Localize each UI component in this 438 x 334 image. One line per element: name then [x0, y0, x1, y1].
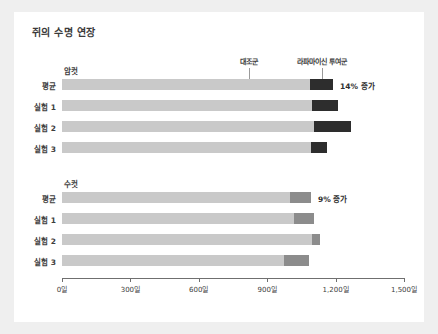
bar-segment-control	[62, 121, 314, 132]
legend-callout-treated: 라파마이신 투여군	[297, 56, 347, 66]
bar-segment-treated	[314, 121, 351, 132]
section-header-male: 수컷	[64, 178, 78, 189]
bar-segment-treated	[310, 79, 333, 90]
annotation-increase: 9% 증가	[318, 192, 347, 203]
legend-callout-control-leader-line	[249, 68, 250, 79]
x-axis-tick-label: 0일	[57, 284, 67, 294]
bar-segment-treated	[284, 255, 309, 266]
x-axis-tick-label: 900일	[258, 284, 277, 294]
x-axis-tick-label: 300일	[121, 284, 140, 294]
chart-card: 쥐의 수명 연장 암컷평균14% 증가실험 1실험 2실험 3수컷평균9% 증가…	[14, 12, 424, 322]
annotation-increase: 14% 증가	[340, 79, 375, 90]
bar-segment-control	[62, 192, 290, 203]
row-label: 실험 2	[34, 234, 56, 245]
x-axis-tick	[130, 278, 131, 282]
x-axis-tick	[336, 278, 337, 282]
bar-segment-control	[62, 79, 310, 90]
bar-segment-treated	[311, 142, 327, 153]
bar-segment-treated	[290, 192, 311, 203]
row-label: 실험 2	[34, 121, 56, 132]
row-label: 실험 1	[34, 213, 56, 224]
row-label: 실험 3	[34, 255, 56, 266]
legend-callout-control: 대조군	[240, 56, 258, 66]
x-axis-tick	[404, 278, 405, 282]
x-axis-tick	[62, 278, 63, 282]
bar-segment-control	[62, 255, 284, 266]
bar-segment-control	[62, 142, 311, 153]
bar-segment-treated	[294, 213, 314, 224]
bar-segment-treated	[312, 100, 338, 111]
row-label: 실험 3	[34, 142, 56, 153]
x-axis-tick-label: 1,200일	[323, 284, 349, 294]
x-axis-tick-label: 600일	[189, 284, 208, 294]
section-header-female: 암컷	[64, 65, 78, 76]
row-label: 평균	[42, 192, 56, 203]
bar-segment-control	[62, 234, 312, 245]
bar-segment-treated	[312, 234, 320, 245]
legend-callout-treated-leader-line	[322, 68, 323, 79]
bar-segment-control	[62, 100, 312, 111]
row-label: 평균	[42, 79, 56, 90]
x-axis-line	[62, 278, 404, 279]
x-axis-tick	[267, 278, 268, 282]
row-label: 실험 1	[34, 100, 56, 111]
chart-plot-area: 암컷평균14% 증가실험 1실험 2실험 3수컷평균9% 증가실험 1실험 2실…	[14, 12, 424, 322]
x-axis-tick	[199, 278, 200, 282]
x-axis-tick-label: 1,500일	[391, 284, 417, 294]
bar-segment-control	[62, 213, 294, 224]
